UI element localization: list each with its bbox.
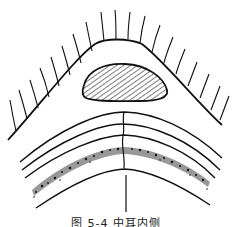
stippled-band xyxy=(32,147,210,198)
anatomical-diagram xyxy=(0,0,232,227)
center-seam xyxy=(122,112,124,168)
arc-layer-1 xyxy=(20,112,222,162)
arc-layer-2 xyxy=(22,124,220,170)
hatched-oval xyxy=(83,64,168,101)
figure-caption: 图 5-4 中耳内侧 xyxy=(0,218,232,227)
